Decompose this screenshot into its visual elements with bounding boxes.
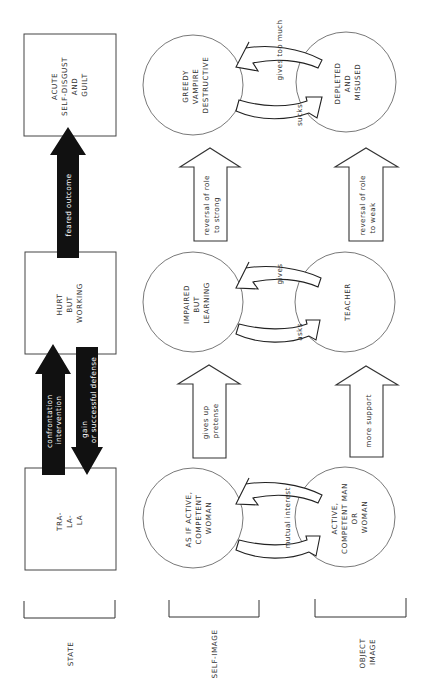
arrow-label: gives up	[201, 406, 210, 440]
circle-text: OR	[350, 513, 359, 525]
exchange-label: gives	[275, 264, 284, 285]
circle-text: DEPLETED	[333, 62, 342, 104]
svg-text:gives up pretense: gives up pretense	[201, 403, 220, 439]
self-image-column: GREEDY VAMPIRE DESTRUCTIVE IMPAIRED BUT …	[143, 35, 259, 679]
box-text: LA-	[65, 515, 74, 528]
arrow-label: to strong	[212, 197, 221, 233]
circle-text: COMPETENT	[194, 495, 203, 545]
curved-arrow-right-icon	[236, 536, 320, 558]
circle-text: DESTRUCTIVE	[201, 57, 210, 114]
arrow-label: reversal of role	[202, 175, 211, 236]
svg-text:more support: more support	[364, 394, 373, 447]
svg-text:confrontation interven: confrontation intervention	[45, 392, 63, 448]
circle-text: IMPAIRED	[182, 285, 191, 324]
arrow-more-support: more support	[336, 366, 398, 457]
circle-text: WOMAN	[360, 501, 369, 533]
circle-text: COMPETENT MAN	[340, 483, 349, 554]
box-text: BUT	[65, 296, 74, 312]
arrow-label: gain	[80, 421, 89, 438]
circle-text: TEACHER	[343, 283, 352, 322]
arrow-gives-up-pretense: gives up pretense	[178, 365, 240, 458]
self-circle-greedy: GREEDY VAMPIRE DESTRUCTIVE	[143, 35, 243, 135]
circle-text: WOMAN	[204, 502, 213, 534]
box-text: ACUTE	[50, 73, 59, 100]
column-label-self-image: SELF-IMAGE	[210, 629, 219, 678]
circle-text: LEARNING	[202, 282, 211, 324]
column-label-object-image: OBJECT IMAGE	[358, 635, 377, 668]
curved-arrow-right-icon	[236, 320, 320, 342]
circle-text: VAMPIRE	[191, 69, 200, 105]
circle-text: ACTIVE,	[330, 502, 339, 534]
arrow-feared-outcome: feared outcome	[50, 127, 86, 258]
column-label-state: STATE	[66, 642, 75, 667]
object-image-column: DEPLETED AND MISUSED TEACHER ACTIVE, COM…	[295, 32, 406, 669]
box-text: HURT	[55, 293, 64, 315]
arrow-label: reversal of role	[358, 175, 367, 236]
arrow-label: feared outcome	[64, 173, 73, 236]
exchange-label: gives too much	[275, 20, 284, 81]
object-circle-depleted: DEPLETED AND MISUSED	[296, 32, 396, 132]
circle-text: AND	[343, 75, 352, 93]
circle-text: AS IF ACTIVE,	[184, 491, 193, 547]
svg-text:TEACHER: TEACHER	[343, 283, 352, 322]
state-bracket	[24, 600, 115, 618]
svg-text:feared outcome: feared outcome	[64, 173, 73, 236]
box-text: WORKING	[75, 283, 84, 323]
box-text: AND	[70, 78, 79, 96]
diagram-canvas: ACUTE SELF-DISGUST AND GUILT HURT BUT WO…	[0, 0, 432, 689]
arrow-label: intervention	[54, 396, 63, 445]
self-image-bracket	[169, 600, 259, 617]
state-box-hurt: HURT BUT WORKING	[25, 252, 116, 354]
box-text: GUILT	[80, 73, 89, 96]
exchange-label: mutual interest	[283, 487, 292, 548]
box-text: LA	[75, 515, 84, 525]
circle-text: GREEDY	[181, 70, 190, 103]
state-box-tralala: TRA- LA- LA	[25, 468, 116, 570]
state-column: ACUTE SELF-DISGUST AND GUILT HURT BUT WO…	[24, 34, 116, 666]
circle-text: MISUSED	[353, 64, 362, 101]
arrow-label: confrontation	[45, 395, 54, 448]
object-image-bracket	[315, 598, 406, 617]
exchange-label: asks	[295, 323, 304, 341]
state-box-acute: ACUTE SELF-DISGUST AND GUILT	[24, 34, 116, 136]
self-circle-impaired: IMPAIRED BUT LEARNING	[143, 252, 243, 352]
exchange-label: sucks	[295, 104, 304, 126]
arrow-label: pretense	[211, 403, 220, 438]
box-text: SELF-DISGUST	[60, 57, 69, 116]
arrow-reversal-strong: reversal of role to strong	[180, 148, 240, 241]
solid-arrow-down-icon	[71, 347, 103, 475]
arrow-confrontation: confrontation intervention	[35, 344, 71, 475]
arrow-gain: gain or successful defense	[71, 347, 103, 475]
self-circle-as-if: AS IF ACTIVE, COMPETENT WOMAN	[143, 468, 243, 568]
box-text: TRA-	[55, 512, 64, 532]
arrow-label: to weak	[368, 202, 377, 234]
arrow-reversal-weak: reversal of role to weak	[335, 148, 398, 241]
arrow-label: more support	[364, 394, 373, 447]
arrow-label: or successful defense	[89, 357, 98, 443]
circle-text: BUT	[192, 296, 201, 312]
